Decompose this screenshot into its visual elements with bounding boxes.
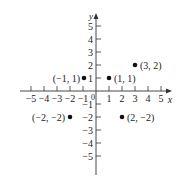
y-tick-label: 3	[88, 47, 93, 58]
point-label: (1, 1)	[114, 73, 136, 85]
y-tick-label: −5	[82, 151, 93, 162]
point-label: (−1, 1)	[53, 73, 80, 85]
x-tick-label: 1	[107, 93, 112, 104]
y-tick-label: −3	[82, 125, 93, 136]
point-neg2-neg2	[68, 115, 73, 120]
y-tick-label: 1	[88, 73, 93, 84]
y-axis-label: y	[88, 11, 93, 21]
y-tick-label: 4	[88, 34, 93, 45]
x-axis-arrow-icon	[166, 89, 172, 94]
point-label: (−2, −2)	[32, 112, 65, 124]
point-label: (3, 2)	[140, 60, 162, 72]
point-label: (2, −2)	[127, 112, 154, 124]
x-axis-label: x	[167, 94, 173, 105]
x-tick-label: −2	[65, 93, 76, 104]
x-tick-label: −5	[26, 93, 37, 104]
y-tick-label: −2	[82, 112, 93, 123]
point-1-1	[107, 76, 112, 81]
x-tick-label: 5	[159, 93, 164, 104]
point-2-neg2	[120, 115, 125, 120]
y-tick-label: 2	[88, 60, 93, 71]
y-tick-label: −4	[82, 138, 93, 149]
x-tick-label: 3	[133, 93, 138, 104]
y-axis-arrow-icon	[94, 13, 99, 19]
x-tick-label: −3	[52, 93, 63, 104]
x-tick-label: −4	[39, 93, 50, 104]
y-tick-label: 5	[88, 21, 93, 32]
point-neg1-1	[82, 76, 87, 81]
x-tick-label: 2	[120, 93, 125, 104]
x-tick-label: 4	[146, 93, 151, 104]
coordinate-plane: −5 −4 −3 −2 −1 0 1 2 3 4 5 x y 5 4 3 2 1…	[0, 0, 181, 185]
y-tick-label: −1	[82, 99, 93, 110]
point-3-2	[133, 63, 138, 68]
